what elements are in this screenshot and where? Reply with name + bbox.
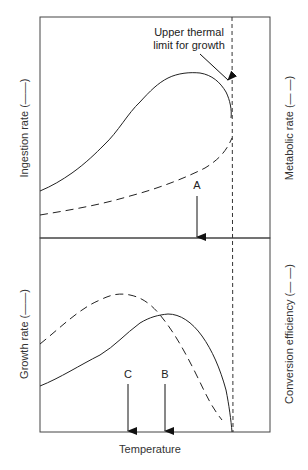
growth-rate-curve bbox=[40, 314, 232, 432]
upper-thermal-limit-line bbox=[232, 17, 233, 432]
ingestion-rate-axis-label: Ingestion rate (——) bbox=[18, 78, 30, 177]
conversion-efficiency-curve bbox=[40, 294, 222, 420]
temperature-axis-label: Temperature bbox=[119, 443, 181, 455]
annotation-upper-thermal-line2: limit for growth bbox=[153, 39, 225, 51]
ingestion-rate-curve bbox=[40, 73, 231, 191]
annotation-arrow bbox=[200, 54, 228, 80]
thermal-performance-diagram: Upper thermal limit for growth A C B Ing… bbox=[0, 0, 308, 470]
marker-b-label: B bbox=[161, 368, 168, 380]
metabolic-rate-axis-label: Metabolic rate (— —) bbox=[283, 76, 295, 181]
annotation-upper-thermal-line1: Upper thermal bbox=[154, 26, 224, 38]
bottom-panel-frame bbox=[40, 238, 270, 432]
marker-c-label: C bbox=[124, 368, 132, 380]
marker-a-label: A bbox=[193, 179, 201, 191]
metabolic-rate-curve bbox=[40, 138, 232, 215]
conversion-efficiency-axis-label: Conversion efficiency (— —) bbox=[283, 264, 295, 404]
growth-rate-axis-label: Growth rate (——) bbox=[18, 289, 30, 379]
